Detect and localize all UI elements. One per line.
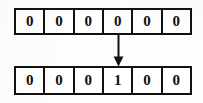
bottom-array-cell-0: 0 [16,68,45,93]
bottom-array-cell-5: 0 [163,68,190,93]
bottom-array-cell-1: 0 [45,68,74,93]
bottom-array: 0 0 0 1 0 0 [14,66,192,95]
top-array-cell-2: 0 [75,10,104,33]
bottom-array-cell-2: 0 [75,68,104,93]
top-array-cell-4: 0 [133,10,162,33]
top-array-cell-1: 0 [45,10,74,33]
top-array-cell-0: 0 [16,10,45,33]
top-array-cell-5: 0 [163,10,190,33]
bit-array-transition-diagram: 0 0 0 0 0 0 0 0 0 1 0 0 [0,0,203,103]
top-array-cell-3: 0 [104,10,133,33]
bottom-array-cell-3: 1 [104,68,133,93]
down-arrow-icon [113,34,124,67]
bottom-array-cell-4: 0 [133,68,162,93]
top-array: 0 0 0 0 0 0 [14,8,192,35]
